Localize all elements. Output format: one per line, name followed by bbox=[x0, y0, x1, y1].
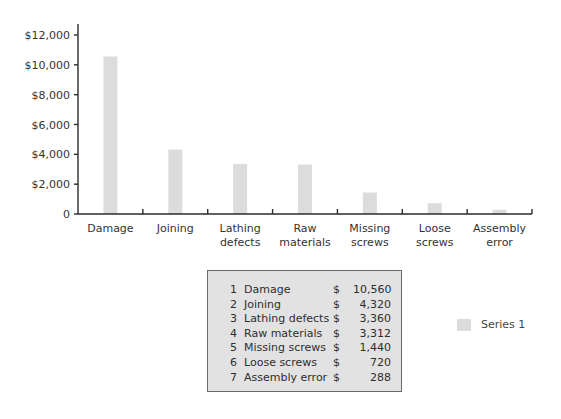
row-currency: $ bbox=[333, 312, 353, 327]
y-tick-label: $12,000 bbox=[25, 29, 71, 42]
row-value: 3,360 bbox=[353, 312, 391, 327]
legend-swatch bbox=[457, 319, 471, 331]
row-currency: $ bbox=[333, 298, 353, 313]
legend-label: Series 1 bbox=[481, 318, 525, 331]
x-tick-label: Joining bbox=[156, 222, 194, 235]
row-index: 7 bbox=[230, 371, 244, 386]
bars bbox=[103, 56, 506, 214]
row-index: 2 bbox=[230, 298, 244, 313]
row-value: 720 bbox=[353, 356, 391, 371]
row-index: 3 bbox=[230, 312, 244, 327]
y-tick-label: $6,000 bbox=[32, 119, 71, 132]
row-label: Joining bbox=[244, 298, 333, 313]
x-tick-label: Damage bbox=[87, 222, 134, 235]
table-row: 2 Joining $ 4,320 bbox=[230, 298, 391, 313]
x-axis: DamageJoiningLathingdefectsRawmaterialsM… bbox=[78, 209, 532, 249]
row-currency: $ bbox=[333, 341, 353, 356]
y-tick-label: $2,000 bbox=[32, 178, 71, 191]
y-tick-label: $10,000 bbox=[25, 59, 71, 72]
x-tick-label: Missing bbox=[349, 222, 390, 235]
row-value: 1,440 bbox=[353, 341, 391, 356]
bar bbox=[168, 150, 182, 214]
table-row: 7 Assembly error $ 288 bbox=[230, 371, 391, 386]
chart-legend: Series 1 bbox=[457, 318, 525, 331]
row-label: Raw materials bbox=[244, 327, 333, 342]
table-row: 1 Damage $ 10,560 bbox=[230, 283, 391, 298]
bar bbox=[298, 165, 312, 214]
row-label: Assembly error bbox=[244, 371, 333, 386]
table-row: 6 Loose screws $ 720 bbox=[230, 356, 391, 371]
data-table: 1 Damage $ 10,560 2 Joining $ 4,320 3 La… bbox=[207, 270, 402, 392]
table-row: 5 Missing screws $ 1,440 bbox=[230, 341, 391, 356]
bar bbox=[363, 193, 377, 214]
y-tick-label: 0 bbox=[63, 208, 70, 221]
row-value: 4,320 bbox=[353, 298, 391, 313]
x-tick-label: Assembly bbox=[473, 222, 527, 235]
row-index: 4 bbox=[230, 327, 244, 342]
y-tick-label: $4,000 bbox=[32, 148, 71, 161]
row-index: 1 bbox=[230, 283, 244, 298]
bar bbox=[233, 164, 247, 214]
row-value: 3,312 bbox=[353, 327, 391, 342]
row-value: 10,560 bbox=[353, 283, 391, 298]
row-label: Loose screws bbox=[244, 356, 333, 371]
y-axis: 0$2,000$4,000$6,000$8,000$10,000$12,000 bbox=[25, 24, 79, 221]
row-currency: $ bbox=[333, 327, 353, 342]
row-label: Damage bbox=[244, 283, 333, 298]
table-row: 4 Raw materials $ 3,312 bbox=[230, 327, 391, 342]
x-tick-label: Raw bbox=[293, 222, 316, 235]
table-row: 3 Lathing defects $ 3,360 bbox=[230, 312, 391, 327]
bar-chart: 0$2,000$4,000$6,000$8,000$10,000$12,000 … bbox=[0, 0, 561, 260]
row-currency: $ bbox=[333, 283, 353, 298]
row-label: Missing screws bbox=[244, 341, 333, 356]
row-currency: $ bbox=[333, 356, 353, 371]
x-tick-label: screws bbox=[351, 236, 389, 249]
x-tick-label: error bbox=[486, 236, 513, 249]
row-index: 6 bbox=[230, 356, 244, 371]
row-value: 288 bbox=[353, 371, 391, 386]
x-tick-label: Loose bbox=[419, 222, 451, 235]
bar bbox=[103, 56, 117, 214]
row-index: 5 bbox=[230, 341, 244, 356]
x-tick-label: Lathing bbox=[220, 222, 261, 235]
x-tick-label: materials bbox=[279, 236, 331, 249]
bar bbox=[428, 203, 442, 214]
row-label: Lathing defects bbox=[244, 312, 333, 327]
x-tick-label: screws bbox=[416, 236, 454, 249]
x-tick-label: defects bbox=[220, 236, 261, 249]
row-currency: $ bbox=[333, 371, 353, 386]
y-tick-label: $8,000 bbox=[32, 89, 71, 102]
